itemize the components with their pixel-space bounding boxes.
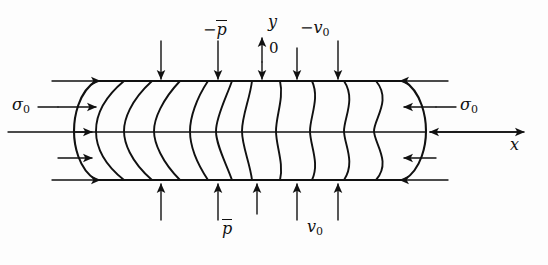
p-bar-bottom-label: p [222, 219, 232, 237]
interior-flow-curves [96, 81, 383, 180]
sigma-right-subscript: 0 [471, 103, 478, 116]
v-bottom-glyph: v [307, 217, 316, 236]
v-bottom-subscript: 0 [316, 225, 323, 238]
x-axis-label: x [510, 137, 519, 153]
sigma-zero-right-label: σ0 [460, 97, 478, 113]
origin-glyph: 0 [269, 39, 279, 57]
figure-container: σ0 σ0 −p p −v0 v0 y 0 x [0, 0, 548, 265]
sigma-right-glyph: σ [460, 95, 471, 114]
sigma-left-glyph: σ [12, 95, 23, 114]
sigma-zero-left-label: σ0 [12, 97, 30, 113]
origin-label: 0 [269, 41, 279, 56]
p-bar-top-glyph: p [216, 20, 226, 38]
bottom-load-arrows [161, 184, 338, 220]
left-tension-arrows [52, 81, 100, 180]
minus-sign-v-top: − [300, 18, 313, 37]
minus-sign-top: − [203, 20, 216, 39]
y-axis-glyph: y [268, 12, 277, 31]
v-zero-bottom-label: v0 [307, 219, 323, 235]
right-tension-arrows [400, 81, 448, 180]
y-axis-label: y [268, 14, 277, 30]
top-load-arrows [161, 41, 338, 79]
minus-p-bar-top-label: −p [203, 20, 227, 38]
x-axis-glyph: x [510, 135, 519, 154]
v-top-subscript: 0 [322, 26, 329, 39]
p-bar-bottom-glyph: p [222, 219, 232, 237]
sigma-left-subscript: 0 [23, 103, 30, 116]
minus-v-zero-top-label: −v0 [300, 20, 329, 36]
